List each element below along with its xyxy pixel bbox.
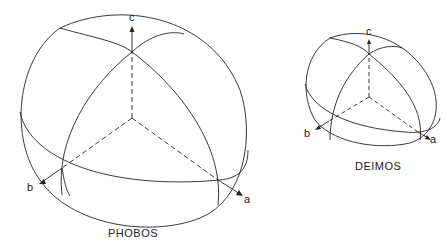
phobos-axis-a-label: a bbox=[244, 194, 250, 205]
deimos-axes bbox=[329, 54, 418, 132]
phobos-axis-arrows bbox=[42, 30, 240, 194]
deimos-ellipsoid bbox=[305, 33, 440, 145]
deimos-axis-a-label: a bbox=[430, 134, 436, 145]
phobos-axes bbox=[62, 52, 218, 180]
phobos-axis-b-label: b bbox=[27, 182, 33, 193]
deimos-title: DEIMOS bbox=[355, 160, 401, 172]
phobos-axis-c-label: c bbox=[129, 12, 135, 23]
phobos-title: PHOBOS bbox=[108, 227, 158, 239]
ellipsoid-diagram bbox=[0, 0, 446, 247]
deimos-axis-b-label: b bbox=[304, 128, 310, 139]
deimos-axis-arrows bbox=[318, 42, 428, 138]
deimos-axis-c-label: c bbox=[366, 26, 372, 37]
phobos-ellipsoid bbox=[20, 15, 248, 227]
